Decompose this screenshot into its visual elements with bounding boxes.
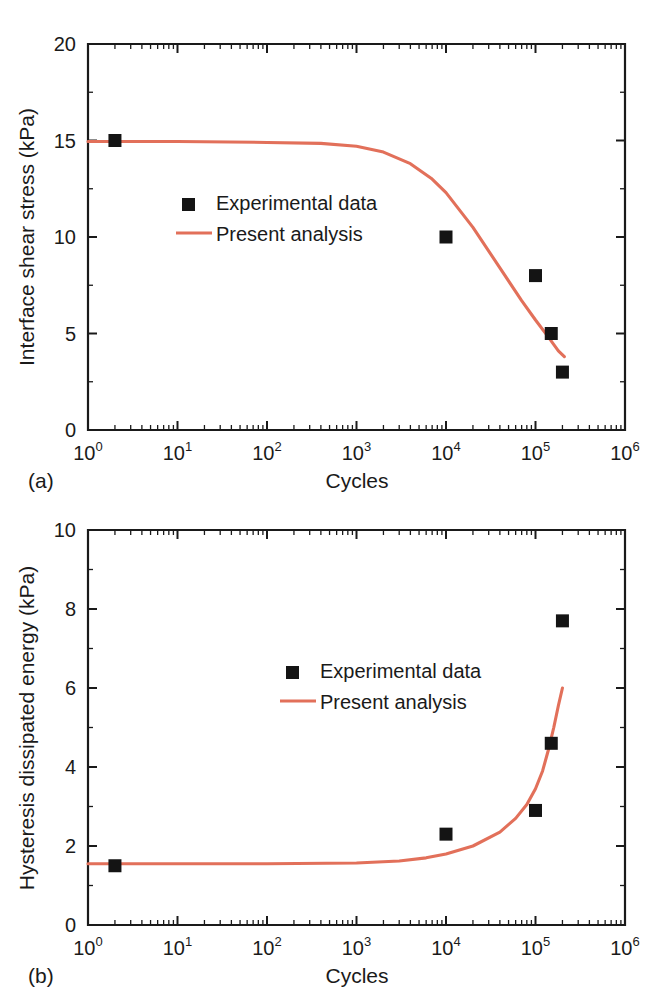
legend-label-experimental-b: Experimental data [320,660,482,682]
data-point-marker [440,828,453,841]
y-tick-label: 8 [65,598,76,620]
figure-two-panel-charts: 100101102103104105106 05101520 Experimen… [0,0,668,1008]
x-tick-label: 101 [163,934,192,959]
y-tick-label: 0 [65,914,76,936]
x-tick-label: 106 [610,439,639,464]
x-tick-label: 105 [521,439,550,464]
data-point-marker [545,737,558,750]
legend-marker-square-a [182,198,195,211]
data-point-marker [556,366,569,379]
data-point-marker [108,859,121,872]
y-tick-label: 6 [65,677,76,699]
legend-label-experimental-a: Experimental data [216,192,378,214]
plot-frame-b [88,530,625,925]
data-point-marker [440,231,453,244]
analysis-curve [88,141,564,356]
y-tick-label: 10 [54,226,76,248]
analysis-curve [88,688,562,864]
panel-label-b: (b) [28,964,54,987]
y-tick-label: 20 [54,33,76,55]
x-tick-label: 101 [163,439,192,464]
legend-marker-square-b [286,666,299,679]
x-tick-label: 102 [252,934,281,959]
y-tick-label: 10 [54,519,76,541]
chart-panel-b: 100101102103104105106 0246810 Experiment… [0,504,668,1008]
x-tick-label: 100 [73,934,102,959]
y-axis-title-b: Hysteresis dissipated energy (kPa) [15,566,38,890]
data-point-marker [529,269,542,282]
legend-a: Experimental data Present analysis [176,192,378,245]
x-tick-label: 105 [521,934,550,959]
legend-label-analysis-a: Present analysis [216,223,363,245]
chart-panel-a: 100101102103104105106 05101520 Experimen… [0,0,668,504]
series-experimental-data-a [108,134,569,379]
y-tick-labels-b: 0246810 [54,519,76,936]
x-tick-label: 104 [431,439,460,464]
data-point-marker [529,804,542,817]
y-tick-labels-a: 05101520 [54,33,76,441]
x-tick-labels-a: 100101102103104105106 [73,439,639,464]
y-tick-label: 0 [65,419,76,441]
legend-b: Experimental data Present analysis [280,660,482,713]
x-tick-labels-b: 100101102103104105106 [73,934,639,959]
axis-ticks-b [88,530,625,925]
y-tick-label: 15 [54,130,76,152]
x-tick-label: 100 [73,439,102,464]
x-tick-label: 103 [342,439,371,464]
x-tick-label: 104 [431,934,460,959]
x-axis-title-a: Cycles [325,469,388,492]
x-tick-label: 103 [342,934,371,959]
y-tick-label: 4 [65,756,76,778]
panel-label-a: (a) [28,469,54,492]
x-tick-label: 106 [610,934,639,959]
data-point-marker [556,614,569,627]
y-tick-label: 5 [65,323,76,345]
legend-label-analysis-b: Present analysis [320,691,467,713]
series-present-analysis-b [88,688,562,864]
data-point-marker [108,134,121,147]
x-axis-title-b: Cycles [325,964,388,987]
data-point-marker [545,327,558,340]
y-tick-label: 2 [65,835,76,857]
series-present-analysis-a [88,141,564,356]
x-tick-label: 102 [252,439,281,464]
y-axis-title-a: Interface shear stress (kPa) [15,108,38,366]
